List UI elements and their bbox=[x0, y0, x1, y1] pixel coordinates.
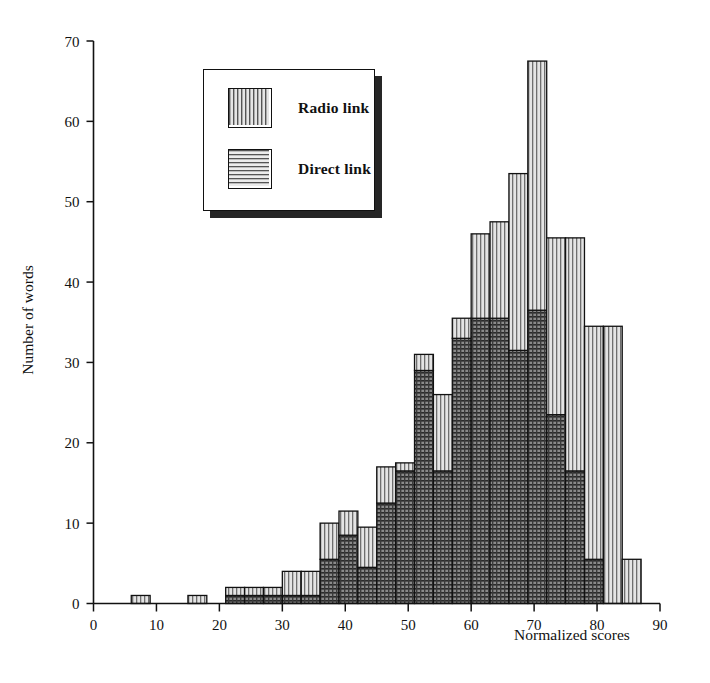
bar-segment bbox=[415, 370, 434, 603]
bar-segment bbox=[566, 471, 585, 604]
bar-segment bbox=[396, 463, 415, 471]
bar-segment bbox=[263, 595, 282, 603]
legend-box: Radio link Direct link bbox=[203, 69, 375, 211]
bar-segment bbox=[452, 318, 471, 338]
y-axis-title: Number of words bbox=[19, 265, 36, 374]
y-tick-label: 10 bbox=[65, 516, 80, 532]
bar-segment bbox=[509, 174, 528, 351]
bar-segment bbox=[131, 595, 150, 603]
bar-segment bbox=[490, 222, 509, 318]
bar-segment bbox=[226, 587, 245, 595]
y-tick-label: 20 bbox=[65, 435, 80, 451]
bar-segment bbox=[471, 234, 490, 318]
y-axis-ticks: 010203040506070 bbox=[65, 34, 94, 613]
bar-segment bbox=[433, 395, 452, 471]
y-tick-label: 40 bbox=[65, 275, 80, 291]
bar-segment bbox=[226, 595, 245, 603]
bar-segment bbox=[358, 527, 377, 567]
x-tick-label: 0 bbox=[90, 617, 98, 633]
bar-segment bbox=[433, 471, 452, 604]
bar-segment bbox=[301, 595, 320, 603]
legend-label-radio-link: Radio link bbox=[298, 99, 369, 117]
bar-segment bbox=[339, 535, 358, 603]
histogram-figure: 010203040506070 0102030405060708090 Numb… bbox=[0, 0, 710, 683]
bar-segment bbox=[188, 595, 207, 603]
y-tick-label: 70 bbox=[65, 34, 80, 50]
bar-segment bbox=[396, 471, 415, 604]
bar-segment bbox=[245, 587, 264, 595]
bar-segment bbox=[452, 338, 471, 603]
bar-segment bbox=[320, 523, 339, 559]
y-tick-label: 30 bbox=[65, 355, 80, 371]
legend-swatch-radio-link bbox=[228, 88, 272, 128]
bar-segment bbox=[415, 354, 434, 370]
bar-segment bbox=[377, 503, 396, 603]
bar-segment bbox=[547, 415, 566, 604]
legend-item-radio-link: Radio link bbox=[228, 88, 369, 128]
x-tick-label: 50 bbox=[401, 617, 416, 633]
bar-segment bbox=[528, 310, 547, 603]
bar-segment bbox=[245, 595, 264, 603]
bar-segment bbox=[528, 61, 547, 310]
bar-segment bbox=[584, 559, 603, 603]
bar-segment bbox=[509, 350, 528, 603]
legend-label-direct-link: Direct link bbox=[298, 160, 371, 178]
legend-swatch-direct-link bbox=[228, 149, 272, 189]
legend-item-direct-link: Direct link bbox=[228, 149, 371, 189]
x-tick-label: 10 bbox=[149, 617, 164, 633]
bar-segment bbox=[603, 326, 622, 603]
bar-segment bbox=[547, 238, 566, 415]
y-tick-label: 60 bbox=[65, 114, 80, 130]
bar-segment bbox=[320, 559, 339, 603]
x-axis-title: Normalized scores bbox=[514, 626, 630, 643]
y-tick-label: 50 bbox=[65, 194, 80, 210]
x-tick-label: 60 bbox=[464, 617, 479, 633]
bar-segment bbox=[263, 587, 282, 595]
y-tick-label: 0 bbox=[72, 596, 80, 612]
bar-segment bbox=[339, 511, 358, 535]
bar-segment bbox=[471, 318, 490, 603]
bar-segment bbox=[358, 567, 377, 603]
bar-segment bbox=[584, 326, 603, 559]
bar-segment bbox=[622, 559, 641, 603]
x-tick-label: 40 bbox=[338, 617, 353, 633]
bar-segment bbox=[377, 467, 396, 503]
bar-segment bbox=[301, 571, 320, 595]
x-tick-label: 90 bbox=[653, 617, 668, 633]
bar-segment bbox=[282, 595, 301, 603]
bar-segment bbox=[566, 238, 585, 471]
x-tick-label: 30 bbox=[275, 617, 290, 633]
x-tick-label: 20 bbox=[212, 617, 227, 633]
bar-segment bbox=[282, 571, 301, 595]
bar-segment bbox=[490, 318, 509, 603]
